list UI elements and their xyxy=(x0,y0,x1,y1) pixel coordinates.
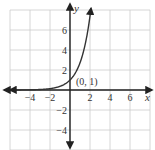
x-axis-label: x xyxy=(144,91,150,103)
exponential-graph: −4−2246642−2−4 (0, 1) x y xyxy=(0,0,155,150)
x-tick-label: 4 xyxy=(108,92,113,103)
y-axis-label: y xyxy=(73,2,79,14)
x-tick-label: 6 xyxy=(128,92,133,103)
y-tick-label: −2 xyxy=(56,105,67,116)
point-annotation: (0, 1) xyxy=(76,76,98,88)
y-tick-label: −4 xyxy=(56,125,67,136)
x-tick-label: −4 xyxy=(25,92,36,103)
x-tick-label: −2 xyxy=(45,92,56,103)
y-tick-label: 4 xyxy=(62,45,67,56)
y-tick-label: 2 xyxy=(62,65,67,76)
x-tick-label: 2 xyxy=(88,92,93,103)
y-tick-label: 6 xyxy=(62,25,67,36)
